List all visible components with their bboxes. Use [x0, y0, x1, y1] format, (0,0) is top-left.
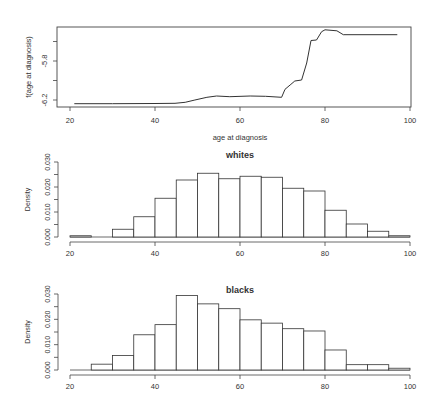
histogram-bar [134, 217, 155, 237]
histogram-bar [176, 296, 197, 370]
y-tick-label: 0.020 [44, 310, 51, 328]
x-axis-label: age at diagnosis [213, 133, 268, 142]
y-tick-label: 0.010 [44, 336, 51, 354]
y-axis-label: f(age at diagnosis) [24, 36, 33, 98]
x-tick-label: 40 [151, 249, 159, 258]
x-tick-label: 80 [321, 116, 329, 125]
y-axis-label: Density [24, 320, 32, 344]
histogram-bar [346, 365, 367, 370]
histogram-bar [240, 320, 261, 370]
y-tick-label: 0.010 [44, 203, 51, 221]
histogram-bar [240, 176, 261, 237]
histogram-bar [134, 335, 155, 370]
smooth-line [74, 30, 397, 104]
y-tick-label: -6.2 [40, 94, 49, 107]
histogram-bar [283, 188, 304, 237]
histogram-bar [155, 198, 176, 237]
histogram-title: blacks [226, 285, 254, 295]
histogram-bar [389, 368, 410, 370]
histogram-bar [176, 180, 197, 237]
plot-frame [57, 27, 411, 107]
histogram-bar [91, 364, 112, 370]
x-tick-label: 20 [66, 116, 74, 125]
figure: 20406080100-6.2-5.8age at diagnosisf(age… [0, 0, 440, 413]
histogram-bar [219, 179, 240, 237]
whites-histogram: whites204060801000.0000.0100.0200.030Den… [24, 150, 416, 258]
x-tick-label: 20 [66, 382, 74, 391]
blacks-histogram: blacks204060801000.0000.0100.0200.030Den… [24, 285, 416, 391]
x-tick-label: 40 [151, 116, 159, 125]
x-tick-label: 60 [236, 382, 244, 391]
histogram-bar [325, 350, 346, 370]
y-tick-label: 0.020 [44, 178, 51, 196]
histogram-bar [155, 325, 176, 370]
histogram-bar [198, 304, 219, 370]
x-tick-label: 100 [404, 116, 417, 125]
histogram-bar [368, 231, 389, 237]
histogram-bar [219, 309, 240, 370]
histogram-bar [113, 356, 134, 370]
x-tick-label: 80 [321, 249, 329, 258]
x-tick-label: 60 [236, 249, 244, 258]
histogram-bar [198, 173, 219, 237]
y-tick-label: 0.000 [44, 228, 51, 246]
histogram-bar [304, 331, 325, 370]
y-axis-label: Density [24, 187, 32, 211]
x-tick-label: 20 [66, 249, 74, 258]
histogram-bar [368, 365, 389, 370]
x-tick-label: 80 [321, 382, 329, 391]
y-tick-label: 0.000 [44, 361, 51, 379]
x-tick-label: 100 [404, 382, 417, 391]
y-tick-label: 0.030 [44, 285, 51, 303]
x-tick-label: 100 [404, 249, 417, 258]
histogram-bar [346, 224, 367, 237]
histogram-bar [113, 229, 134, 237]
histogram-bar [283, 329, 304, 370]
histogram-bar [70, 236, 91, 237]
x-tick-label: 60 [236, 116, 244, 125]
histogram-bar [389, 236, 410, 237]
histogram-bar [304, 191, 325, 237]
x-tick-label: 40 [151, 382, 159, 391]
y-tick-label: 0.030 [44, 153, 51, 171]
histogram-bar [261, 177, 282, 237]
histogram-title: whites [225, 150, 254, 160]
histogram-bar [261, 323, 282, 370]
histogram-bar [325, 210, 346, 237]
y-tick-label: -5.8 [40, 55, 49, 68]
smooth-term-plot: 20406080100-6.2-5.8age at diagnosisf(age… [24, 27, 416, 142]
